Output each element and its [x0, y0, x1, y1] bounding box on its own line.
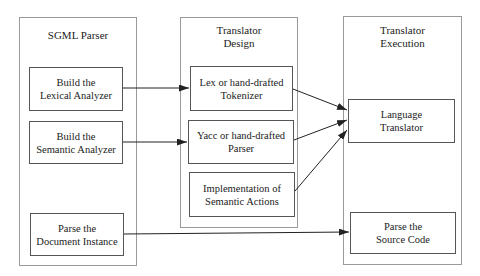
box-label-line: Parse the — [58, 222, 96, 235]
group-title-line: Design — [181, 37, 297, 50]
arrow-tokenizer-to-translator — [293, 89, 347, 110]
box-label-line: Build the — [57, 130, 96, 143]
arrow-parser-to-translator — [294, 120, 347, 140]
parse-source-box: Parse the Source Code — [350, 212, 456, 254]
box-label-line: Parse the — [384, 220, 422, 233]
box-label-line: Semantic Analyzer — [36, 143, 116, 156]
box-label-line: Language — [381, 108, 422, 121]
box-label-line: Translator — [380, 121, 423, 134]
language-translator-box: Language Translator — [348, 99, 455, 143]
build-lexical-box: Build the Lexical Analyzer — [29, 67, 123, 111]
group-title-line: Execution — [344, 37, 461, 50]
box-label-line: Semantic Actions — [205, 195, 279, 208]
yacc-parser-box: Yacc or hand-drafted Parser — [188, 120, 294, 164]
arrow-actions-to-translator — [295, 130, 347, 191]
group-title: Translator Design — [181, 24, 297, 50]
arrow-document-to-source — [124, 232, 349, 234]
box-label-line: Lexical Analyzer — [40, 89, 112, 102]
group-title: Translator Execution — [344, 24, 461, 50]
group-title-line: Translator — [344, 24, 461, 37]
box-label-line: Document Instance — [36, 235, 117, 248]
lex-tokenizer-box: Lex or hand-drafted Tokenizer — [190, 66, 293, 111]
box-label-line: Lex or hand-drafted — [200, 76, 284, 89]
box-label-line: Tokenizer — [221, 89, 263, 102]
build-semantic-box: Build the Semantic Analyzer — [29, 121, 123, 164]
box-label-line: Parser — [228, 142, 254, 155]
group-title-line: Translator — [181, 24, 297, 37]
box-label-line: Implementation of — [203, 182, 281, 195]
group-title-line: SGML Parser — [48, 29, 108, 41]
parse-document-box: Parse the Document Instance — [30, 213, 124, 256]
box-label-line: Yacc or hand-drafted — [197, 129, 285, 142]
semantic-actions-box: Implementation of Semantic Actions — [189, 172, 295, 217]
group-title: SGML Parser — [20, 29, 136, 42]
box-label-line: Source Code — [376, 233, 430, 246]
box-label-line: Build the — [57, 76, 96, 89]
